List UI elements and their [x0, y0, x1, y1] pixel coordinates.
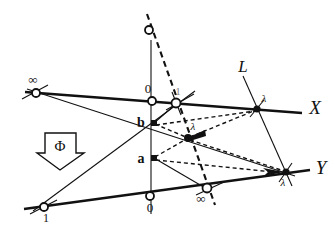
projective-diagram: Φ ∞ 0 1 λ X 1 0 ∞ λ Y b a λ L: [0, 0, 335, 233]
label-y-infinity: ∞: [196, 191, 205, 206]
label-y-one: 1: [43, 211, 49, 225]
y-axis-line: [24, 170, 310, 209]
label-x-one: 1: [175, 85, 181, 97]
marker-x-zero: [148, 97, 156, 105]
dashed-b-to-xlambda: [156, 111, 255, 125]
filled-square-markers: [151, 120, 157, 161]
dashed-a-to-lambda: [155, 138, 188, 157]
label-x-axis: X: [308, 97, 322, 118]
marker-x-lambda: [253, 105, 260, 112]
label-x-zero: 0: [145, 81, 152, 96]
figure-root: Φ ∞ 0 1 λ X 1 0 ∞ λ Y b a λ L: [0, 0, 335, 233]
phi-label: Φ: [55, 138, 66, 154]
label-script-L: L: [237, 57, 247, 76]
dashed-lambda-to-ylambda: [190, 140, 284, 171]
marker-y-one: [40, 203, 48, 211]
marker-point-a: [151, 155, 157, 161]
label-point-b: b: [137, 115, 145, 130]
marker-y-zero: [146, 192, 154, 200]
marker-x-one: [172, 99, 181, 108]
construction-lines: [22, 40, 295, 214]
phi-map-arrow: Φ: [37, 133, 84, 170]
marker-y-lambda: [282, 168, 289, 175]
dashed-a-to-ylambda: [156, 160, 283, 173]
marker-point-b: [151, 120, 157, 126]
marker-x-infinity: [32, 89, 40, 97]
marker-lambda-center: [184, 134, 192, 142]
label-point-a: a: [138, 151, 145, 166]
dashed-steep-line: [147, 14, 215, 205]
label-y-lambda: λ: [280, 176, 286, 188]
label-y-axis: Y: [316, 157, 329, 178]
label-x-infinity: ∞: [28, 72, 37, 87]
label-y-zero: 0: [147, 200, 154, 215]
marker-top-vertex: [145, 26, 153, 34]
label-lambda-center: λ: [190, 120, 196, 132]
label-x-lambda: λ: [261, 92, 267, 104]
